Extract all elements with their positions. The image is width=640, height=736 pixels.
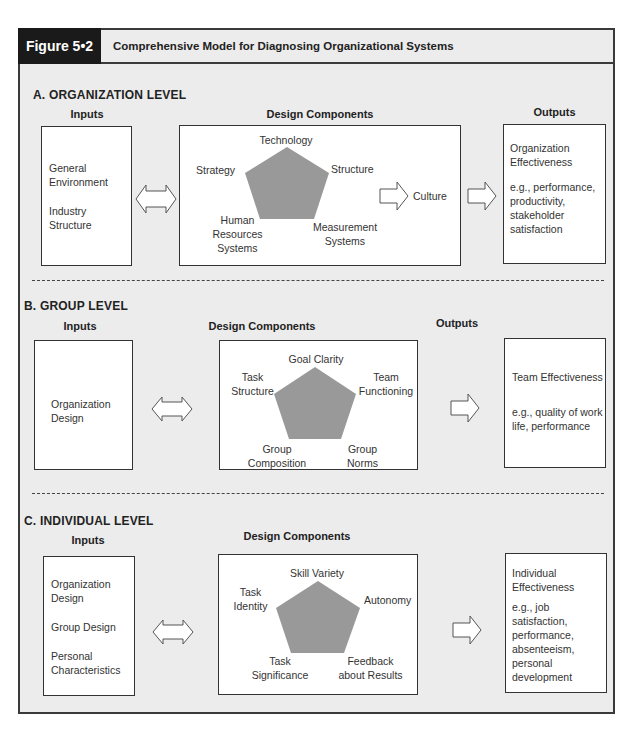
section-a-output-examples: e.g., performance, productivity, stakeho… — [510, 180, 604, 236]
section-c-comp-top: Skill Variety — [277, 566, 357, 580]
section-b-comp-top: Goal Clarity — [276, 352, 356, 366]
section-c-output-examples: e.g., job satisfaction, performance, abs… — [512, 600, 606, 684]
section-c-comp-right: Autonomy — [364, 593, 411, 607]
section-b-comp-right: Team Functioning — [356, 370, 416, 398]
double-arrow-icon — [151, 394, 193, 424]
section-b-outputs-box — [504, 338, 606, 468]
section-a-design-heading: Design Components — [180, 108, 460, 120]
section-b-design-heading: Design Components — [177, 320, 347, 332]
section-b-output-examples: e.g., quality of work life, performance — [512, 405, 604, 433]
section-b-outputs-heading: Outputs — [412, 317, 502, 329]
section-a-comp-left: Strategy — [196, 163, 235, 177]
section-a-comp-top: Technology — [246, 133, 326, 147]
section-c-comp-left: Task Identity — [228, 585, 273, 613]
double-arrow-icon — [152, 617, 194, 647]
section-divider — [32, 493, 604, 494]
section-c-design-heading: Design Components — [212, 530, 382, 542]
section-b-input-1: Organization Design — [51, 397, 131, 425]
section-a-comp-bottom-right: Measurement Systems — [305, 220, 385, 248]
section-b-comp-bottom-left: Group Composition — [242, 442, 312, 470]
arrow-right-icon — [452, 615, 482, 645]
section-a-pentagon — [244, 146, 330, 220]
section-a-culture: Culture — [413, 189, 447, 203]
double-arrow-icon — [135, 182, 177, 216]
section-c-pentagon — [275, 580, 361, 654]
figure-label: Figure 5•2 — [18, 28, 101, 64]
arrow-right-icon — [467, 181, 497, 211]
section-c-comp-bottom-left: Task Significance — [245, 654, 315, 682]
section-b-inputs-heading: Inputs — [35, 320, 125, 332]
section-a-comp-bottom-left: Human Resources Systems — [200, 213, 275, 255]
section-a-outputs-heading: Outputs — [503, 106, 606, 118]
section-c-title: C. INDIVIDUAL LEVEL — [24, 514, 154, 528]
section-b-comp-left: Task Structure — [230, 370, 275, 398]
section-a-comp-right: Structure — [331, 162, 374, 176]
section-c-input-3: Personal Characteristics — [51, 649, 135, 677]
section-b-comp-bottom-right: Group Norms — [335, 442, 390, 470]
section-c-inputs-heading: Inputs — [43, 534, 133, 546]
section-a-inputs-heading: Inputs — [42, 108, 132, 120]
section-a-inputs-box — [41, 126, 132, 266]
section-b-output-title: Team Effectiveness — [512, 370, 604, 384]
section-b-title: B. GROUP LEVEL — [24, 299, 128, 313]
section-a-output-title: Organization Effectiveness — [510, 141, 604, 169]
section-divider — [32, 280, 604, 281]
section-a-input-1: General Environment — [49, 161, 129, 189]
section-a-title: A. ORGANIZATION LEVEL — [33, 88, 186, 102]
section-c-comp-bottom-right: Feedback about Results — [333, 654, 408, 682]
section-c-input-1: Organization Design — [51, 577, 133, 605]
section-c-output-title: Individual Effectiveness — [512, 566, 606, 594]
arrow-right-icon — [379, 181, 409, 211]
section-b-pentagon — [273, 366, 357, 440]
arrow-right-icon — [450, 393, 480, 423]
section-a-input-2: Industry Structure — [49, 204, 129, 232]
figure-title: Comprehensive Model for Diagnosing Organ… — [113, 28, 454, 64]
section-c-input-2: Group Design — [51, 620, 133, 634]
